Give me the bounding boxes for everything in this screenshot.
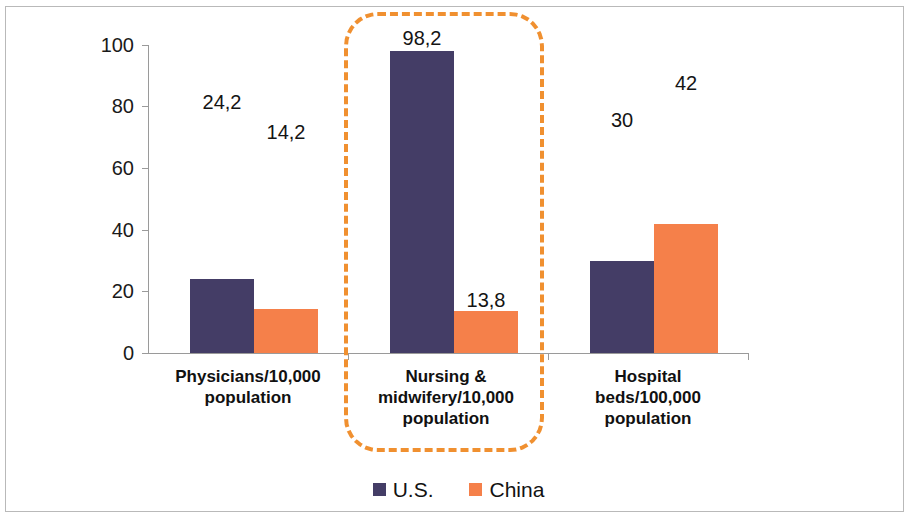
x-category-label-hospital-beds-line3: population [550,408,746,429]
chart-screenshot: 100 80 60 40 20 0 24,2 14,2 [0,0,917,521]
bar-china-nursing[interactable] [454,311,518,354]
bar-china-physicians[interactable] [254,309,318,353]
bar-value-us-hospital-beds: 30 [586,109,658,131]
bar-value-china-nursing: 13,8 [450,289,522,311]
x-category-label-nursing-line3: population [348,408,544,429]
x-category-label-nursing-line1: Nursing & [348,366,544,387]
y-tick-label-80: 80 [74,96,134,116]
x-category-label-physicians: Physicians/10,000 population [150,366,346,408]
bar-value-china-physicians: 14,2 [250,121,322,143]
bar-value-china-hospital-beds: 42 [650,72,722,94]
x-category-label-hospital-beds: Hospital beds/100,000 population [550,366,746,429]
legend-item-china[interactable]: China [469,479,544,500]
bar-china-hospital-beds[interactable] [654,224,718,353]
x-category-label-nursing-line2: midwifery/10,000 [348,387,544,408]
x-category-label-physicians-line2: population [150,387,346,408]
bar-value-us-physicians: 24,2 [186,91,258,113]
x-category-label-hospital-beds-line1: Hospital [550,366,746,387]
x-category-label-physicians-line1: Physicians/10,000 [150,366,346,387]
bar-us-physicians[interactable] [190,279,254,354]
y-tick-label-100: 100 [74,35,134,55]
x-category-label-hospital-beds-line2: beds/100,000 [550,387,746,408]
legend-label-china: China [489,479,544,500]
chart-legend: U.S. China [0,479,917,500]
y-tick-label-40: 40 [74,220,134,240]
x-axis-line [148,353,748,354]
bar-value-us-nursing: 98,2 [386,27,458,49]
y-tick-label-20: 20 [74,281,134,301]
legend-item-us[interactable]: U.S. [373,479,434,500]
plot-area: 24,2 14,2 98,2 13,8 30 42 [148,45,748,353]
y-tick-label-60: 60 [74,158,134,178]
bar-us-hospital-beds[interactable] [590,261,654,353]
bar-us-nursing[interactable] [390,51,454,353]
x-tick-mark-1 [348,353,349,360]
x-category-label-nursing: Nursing & midwifery/10,000 population [348,366,544,429]
y-tick-label-0: 0 [74,343,134,363]
legend-label-us: U.S. [393,479,434,500]
legend-swatch-china-icon [469,483,482,496]
x-tick-mark-3 [748,353,749,360]
legend-swatch-us-icon [373,483,386,496]
y-tick-mark-0 [142,353,149,354]
x-tick-mark-2 [548,353,549,360]
